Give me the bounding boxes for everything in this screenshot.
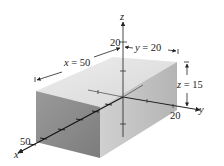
y-dim-arrow-1 [125,47,133,48]
x-tick-label: 50 [20,136,31,147]
y-tick-label: 20 [170,110,181,121]
z-tick-label: 20 [110,37,121,48]
x-axis-label: x [13,149,19,160]
y-axis-label: y [198,104,204,115]
box-diagram: z y x 20 20 50 x = 50 y = 20 z = 15 [0,0,224,166]
y-dimension-label: y = 20 [134,42,161,53]
z-axis-label: z [119,11,124,22]
y-dim-arrow-2 [168,50,176,51]
x-dim-arrow-1 [37,72,62,80]
z-dimension-label: z = 15 [176,79,203,90]
x-dimension-label: x = 50 [63,57,90,68]
x-dim-arrow-2 [94,48,120,57]
